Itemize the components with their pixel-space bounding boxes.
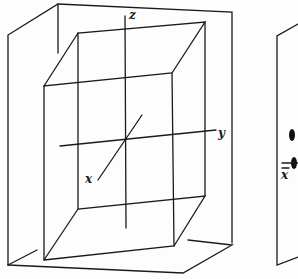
symmetry-symbols — [282, 129, 298, 169]
twofold-axis-icon — [289, 129, 295, 141]
z-axis — [125, 16, 126, 228]
y-axis-label: y — [217, 126, 226, 140]
crystal-diagram: z y x x — [0, 0, 298, 279]
x-axis-label: x — [84, 172, 93, 186]
z-axis-label: z — [128, 8, 137, 22]
x-bar-label: x — [280, 168, 289, 182]
y-axis — [60, 130, 216, 146]
outer-frame — [8, 4, 232, 273]
x-axis — [98, 115, 142, 180]
right-figure-frame — [277, 24, 298, 265]
axes — [60, 16, 216, 228]
